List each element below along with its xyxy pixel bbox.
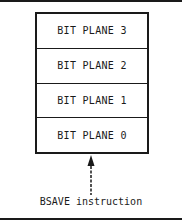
bit-plane-2: BIT PLANE 2	[37, 49, 147, 84]
bit-plane-0-label: BIT PLANE 0	[57, 130, 127, 141]
bit-plane-stack: BIT PLANE 3 BIT PLANE 2 BIT PLANE 1 BIT …	[35, 12, 149, 154]
bsave-caption: BSAVE instruction	[0, 196, 182, 207]
top-rule	[0, 0, 182, 2]
bit-plane-0: BIT PLANE 0	[37, 118, 147, 152]
bit-plane-1: BIT PLANE 1	[37, 84, 147, 119]
dashed-up-arrow-icon	[86, 155, 96, 195]
bit-plane-3-label: BIT PLANE 3	[57, 25, 127, 36]
bit-plane-3: BIT PLANE 3	[37, 14, 147, 49]
bit-plane-2-label: BIT PLANE 2	[57, 60, 127, 71]
bottom-rule	[0, 218, 182, 220]
bit-plane-1-label: BIT PLANE 1	[57, 95, 127, 106]
